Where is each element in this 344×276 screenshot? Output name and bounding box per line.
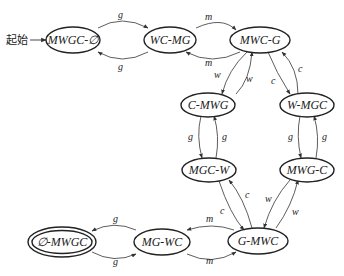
edge-label: m bbox=[205, 11, 212, 22]
node-mwg-c: MWG-C bbox=[280, 158, 334, 182]
edge-m-n2-n1 bbox=[186, 52, 240, 59]
edge-w-n2-n3 bbox=[222, 52, 247, 94]
edge-w-n7-n6 bbox=[276, 180, 298, 228]
edge-g-n5-n3 bbox=[214, 116, 218, 158]
svg-text:MWGC-∅: MWGC-∅ bbox=[47, 33, 100, 47]
edge-g-n4-n6 bbox=[298, 116, 301, 158]
edge-m-n1-n2 bbox=[196, 22, 236, 30]
edge-label: w bbox=[292, 206, 299, 217]
node-g-mwc: G-MWC bbox=[228, 228, 288, 254]
edge-g-n1-n0 bbox=[98, 52, 148, 59]
edge-label: w bbox=[246, 73, 253, 84]
edge-label: m bbox=[206, 213, 213, 224]
svg-text:W-MGC: W-MGC bbox=[287, 98, 328, 112]
edge-label: g bbox=[118, 9, 123, 20]
edge-label: g bbox=[113, 213, 118, 224]
edge-label: c bbox=[220, 205, 225, 216]
svg-text:MGC-W: MGC-W bbox=[188, 163, 231, 177]
edge-g-n6-n4 bbox=[314, 116, 318, 158]
svg-text:C-MWG: C-MWG bbox=[188, 98, 229, 112]
edge-label: w bbox=[214, 69, 221, 80]
edge-label: g bbox=[113, 256, 118, 267]
edge-label: g bbox=[118, 61, 123, 72]
svg-text:MG-WC: MG-WC bbox=[141, 235, 184, 249]
svg-text:MWG-C: MWG-C bbox=[286, 163, 329, 177]
edge-g-n3-n5 bbox=[199, 116, 202, 158]
edge-label: m bbox=[206, 255, 213, 266]
node-empty-mwgc-accepting: ∅-MWGC bbox=[28, 227, 96, 257]
node-wc-mg: WC-MG bbox=[144, 27, 196, 53]
edge-label: c bbox=[245, 189, 250, 200]
edge-g-n8-n9 bbox=[92, 225, 136, 231]
edge-c-n4-n2 bbox=[282, 52, 298, 94]
start-label: 起始 bbox=[6, 33, 28, 47]
node-c-mwg: C-MWG bbox=[181, 93, 235, 117]
edge-c-n7-n5 bbox=[229, 180, 252, 228]
svg-text:MWC-G: MWC-G bbox=[239, 33, 281, 47]
node-mwgc-empty: MWGC-∅ bbox=[46, 27, 100, 53]
edge-g-n0-n1 bbox=[98, 21, 148, 28]
edges: g g m m w w c c g g g g c c w w m m bbox=[92, 9, 327, 267]
state-diagram: 起始 g g m m w w c c g g g g c c w w bbox=[0, 0, 344, 276]
edge-label: w bbox=[265, 193, 272, 204]
svg-text:WC-MG: WC-MG bbox=[150, 33, 191, 47]
edge-label: g bbox=[288, 131, 293, 142]
svg-text:G-MWC: G-MWC bbox=[238, 234, 280, 248]
node-mgc-w: MGC-W bbox=[182, 158, 236, 182]
node-mg-wc: MG-WC bbox=[134, 229, 190, 255]
edge-c-n2-n4 bbox=[268, 52, 290, 94]
edge-label: g bbox=[322, 131, 327, 142]
edge-w-n6-n7 bbox=[264, 180, 290, 228]
node-mwc-g: MWC-G bbox=[230, 27, 290, 53]
node-w-mgc: W-MGC bbox=[280, 93, 334, 117]
edge-label: c bbox=[271, 75, 276, 86]
svg-text:∅-MWGC: ∅-MWGC bbox=[37, 235, 89, 249]
edge-label: m bbox=[205, 57, 212, 68]
edge-label: g bbox=[188, 131, 193, 142]
edge-m-n7-n8 bbox=[187, 226, 234, 230]
edge-label: g bbox=[222, 131, 227, 142]
edge-label: c bbox=[298, 63, 303, 74]
